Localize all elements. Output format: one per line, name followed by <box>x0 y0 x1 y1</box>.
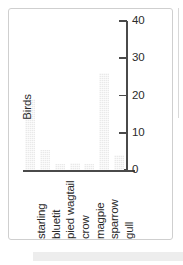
bar-gull <box>114 155 124 170</box>
screenshot-page: 010203040 Birds starlingbluetitpied wagt… <box>0 0 183 265</box>
y-axis-tick-label: 40 <box>132 15 144 27</box>
bar-crow <box>70 163 80 170</box>
x-axis-label-crow: crow <box>79 216 91 239</box>
bar-magpie <box>84 164 94 170</box>
bar-pied-wagtail <box>55 164 65 170</box>
x-axis-label-bluetit: bluetit <box>50 210 62 239</box>
x-axis-label-magpie: magpie <box>94 202 106 239</box>
y-axis-tick-label: 10 <box>132 127 144 139</box>
chart-figure-frame: 010203040 Birds starlingbluetitpied wagt… <box>8 8 173 240</box>
x-axis-label-sparrow: sparrow <box>108 199 120 239</box>
x-axis-label-starling: starling <box>35 204 47 239</box>
y-axis-tick-label: 30 <box>132 52 144 64</box>
bar-chart-plot-area: 010203040 Birds starlingbluetitpied wagt… <box>9 9 174 241</box>
bar-bluetit <box>40 150 50 170</box>
x-axis-category-labels: starlingbluetitpied wagtailcrowmagpiespa… <box>23 173 133 241</box>
bottom-grey-band <box>33 252 183 261</box>
x-axis-label-pied-wagtail: pied wagtail <box>64 181 76 239</box>
adjacent-page-edge <box>178 8 183 118</box>
y-axis-title: Birds <box>21 77 33 137</box>
y-axis-tick-label: 20 <box>132 90 144 102</box>
bar-sparrow <box>99 73 109 170</box>
x-axis-label-gull: gull <box>123 222 135 239</box>
bar-series-birds <box>23 21 126 170</box>
